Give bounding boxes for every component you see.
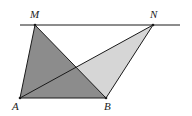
label-a: A (11, 100, 19, 112)
label-b: B (104, 100, 111, 112)
point-a (19, 97, 22, 100)
geometry-diagram: M N A B (0, 0, 192, 116)
point-n (152, 24, 155, 27)
point-m (34, 24, 37, 27)
label-m: M (29, 8, 40, 20)
label-n: N (149, 8, 158, 20)
point-b (105, 97, 108, 100)
